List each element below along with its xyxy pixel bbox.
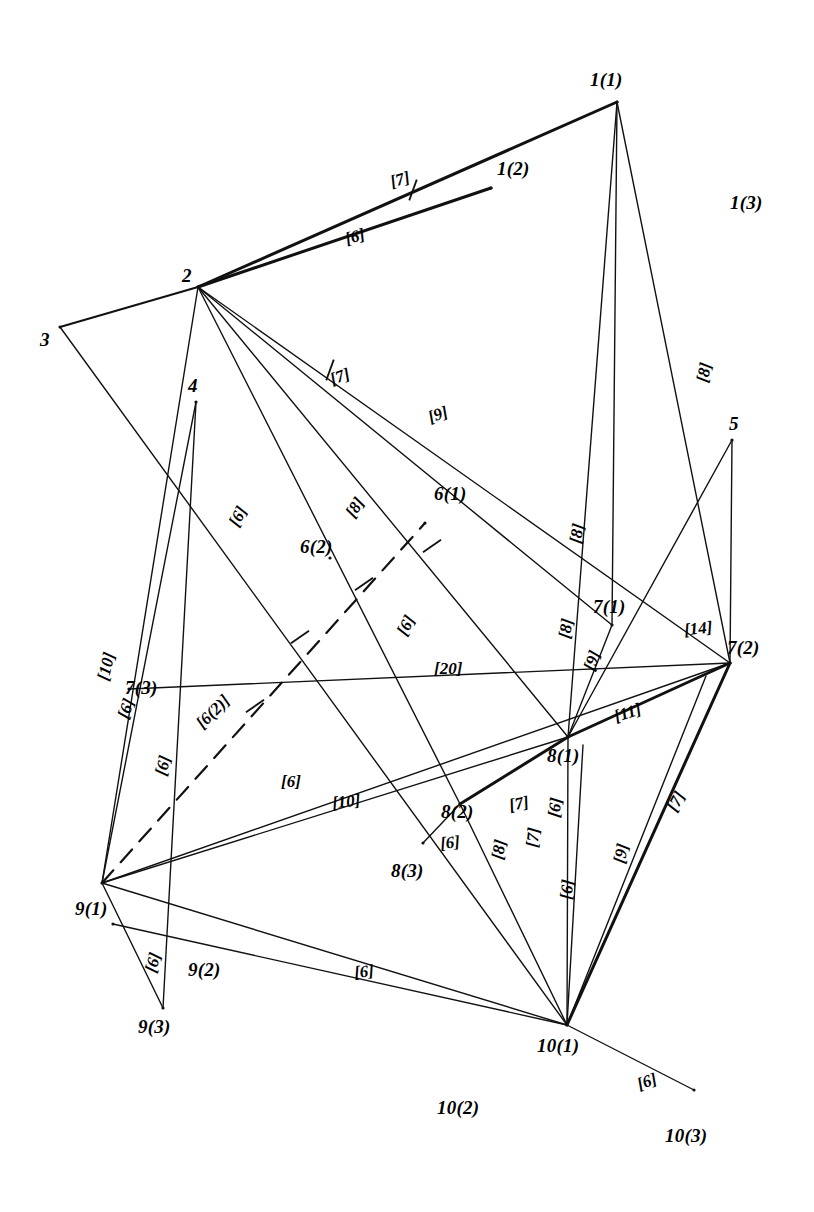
edge-9(1)-to-10(1) <box>102 883 567 1025</box>
edge-weight-label: [8] <box>489 838 509 860</box>
node-label-3: 3 <box>40 330 50 349</box>
node-label-2: 2 <box>182 266 192 285</box>
node-label-7(3): 7(3) <box>125 678 157 697</box>
vertex-9(2) <box>111 922 114 925</box>
edge-weight-label: [7] <box>523 827 542 848</box>
edge-weight-label: [10] <box>331 792 361 812</box>
node-label-4: 4 <box>188 376 198 395</box>
vertex-3 <box>58 325 61 328</box>
edge-tick-mark <box>291 631 309 644</box>
edge-10(1)-to-10(3) <box>567 1025 694 1090</box>
vertex-8(1) <box>566 735 569 738</box>
edge-weight-label: [9] <box>611 842 632 865</box>
node-label-6(1): 6(1) <box>434 484 466 503</box>
node-label-10(1): 10(1) <box>537 1036 579 1055</box>
edge-1(1)-to-7(2) <box>617 102 730 663</box>
edge-10(1)-to-8(2) <box>460 804 567 1025</box>
edge-9(1)-to-7(2) <box>102 663 730 883</box>
edge-5-to-7(2) <box>730 440 732 663</box>
node-label-9(1): 9(1) <box>75 899 107 918</box>
edge-9(2)-to-10(1) <box>113 924 567 1025</box>
edge-10(1)-to-7(2) <box>567 663 730 1025</box>
edge-4-to-9(1) <box>102 402 196 883</box>
edge-weight-label: [8] <box>556 617 576 639</box>
vertex-9(3) <box>161 1006 164 1009</box>
vertex-4 <box>194 400 197 403</box>
node-label-8(3): 8(3) <box>391 861 423 880</box>
edge-weight-label: [6] <box>281 773 301 790</box>
edges-layer <box>60 102 732 1090</box>
edge-2-to-8(1) <box>198 287 568 737</box>
vertex-7(2) <box>728 661 731 664</box>
edge-9(1)-to-9(3) <box>102 883 163 1008</box>
vertex-7(1) <box>610 623 613 626</box>
vertex-5 <box>730 438 733 441</box>
vertex-10(1) <box>565 1023 568 1026</box>
edge-weight-label: [14] <box>683 619 713 639</box>
edge-1(1)-to-7(1) <box>612 102 617 625</box>
edge-weight-label: [20] <box>434 660 462 677</box>
edge-weight-label: [6] <box>439 833 460 852</box>
edge-2-to-7(2) <box>198 287 730 663</box>
edge-weight-label: [6] <box>545 796 565 818</box>
edge-4-to-9(3) <box>163 402 196 1008</box>
edge-2-to-7(1) <box>198 287 612 625</box>
edge-3-to-2 <box>60 287 198 327</box>
node-label-1(2): 1(2) <box>497 159 529 178</box>
edge-weight-label: [6] <box>152 754 173 777</box>
vertex-2 <box>196 285 199 288</box>
vertex-10(3) <box>692 1088 695 1091</box>
node-label-1(3): 1(3) <box>730 193 762 212</box>
edge-weight-label: [8] <box>694 361 715 384</box>
vertex-1(1) <box>615 100 618 103</box>
edge-5-to-8(1) <box>568 440 732 737</box>
node-label-7(2): 7(2) <box>727 638 759 657</box>
node-label-1(1): 1(1) <box>590 70 622 89</box>
edge-7(3)-to-7(2) <box>129 663 730 689</box>
node-label-10(3): 10(3) <box>665 1126 707 1145</box>
node-label-8(1): 8(1) <box>547 746 579 765</box>
node-label-8(2): 8(2) <box>441 802 473 821</box>
node-label-9(3): 9(3) <box>138 1017 170 1036</box>
vertex-8(3) <box>421 841 424 844</box>
edge-weight-label: [6] <box>353 962 374 981</box>
node-label-9(2): 9(2) <box>188 960 220 979</box>
vertices-layer <box>58 100 733 1091</box>
edge-weight-label: [7] <box>507 793 530 814</box>
edge-2-to-1(1) <box>198 102 617 287</box>
node-label-5: 5 <box>729 414 739 433</box>
edge-weight-label: [6] <box>557 879 576 900</box>
edge-weight-label: [8] <box>567 522 587 544</box>
node-label-10(2): 10(2) <box>437 1098 479 1117</box>
edge-1(1)-to-8(1) <box>568 102 617 737</box>
edge-tick-mark <box>423 540 441 553</box>
diagram-canvas: 1(1)1(2)1(3)23456(1)6(2)7(1)7(2)7(3)8(1)… <box>0 0 814 1212</box>
edge-9(1)-to-6(1) <box>102 523 425 883</box>
node-label-7(1): 7(1) <box>593 597 625 616</box>
vertex-1(2) <box>489 186 492 189</box>
node-label-6(2): 6(2) <box>300 537 332 556</box>
vertex-9(1) <box>100 881 103 884</box>
vertex-6(1) <box>423 521 426 524</box>
